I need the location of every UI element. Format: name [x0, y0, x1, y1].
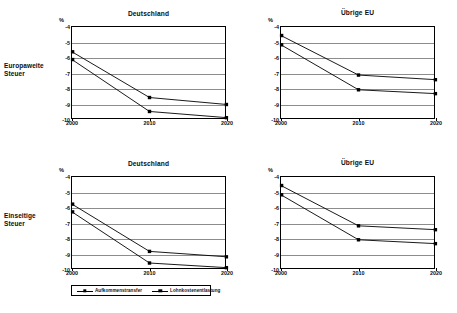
plot-area: -4-5-6-7-8-9-10200020102020	[71, 26, 226, 119]
y-axis-tick-label: -5	[65, 40, 70, 46]
y-axis-unit-label: %	[268, 17, 273, 23]
y-axis-tick-label: -4	[274, 174, 279, 180]
chart-panel-top-left: Deutschland%-4-5-6-7-8-9-10200020102020	[71, 10, 226, 133]
data-point-marker	[434, 92, 437, 95]
data-point-marker	[71, 210, 74, 213]
data-point-marker	[357, 224, 360, 227]
row-label-line2: Steuer	[4, 70, 56, 78]
data-point-marker	[357, 88, 360, 91]
legend-marker-icon	[77, 288, 93, 294]
series-layer	[281, 27, 436, 120]
y-axis-tick-label: -9	[274, 252, 279, 258]
series-layer	[281, 177, 436, 270]
y-axis-tick-label: -6	[274, 205, 279, 211]
data-point-marker	[225, 266, 228, 269]
x-axis-tick-mark	[436, 118, 437, 121]
chart-panel-bottom-right: Übrige EU%-4-5-6-7-8-9-10200020102020	[280, 159, 435, 283]
data-point-marker	[357, 238, 360, 241]
data-point-marker	[280, 184, 283, 187]
row-label-europaweite-steuer: Europaweite Steuer	[0, 62, 56, 78]
y-axis-tick-label: -7	[65, 221, 70, 227]
y-axis-tick-label: -6	[65, 55, 70, 61]
y-axis-tick-label: -9	[65, 102, 70, 108]
data-point-marker	[148, 110, 151, 113]
data-point-marker	[71, 202, 74, 205]
series-line	[281, 195, 436, 244]
chart-panel-top-right: Übrige EU%-4-5-6-7-8-9-10200020102020	[280, 9, 435, 133]
row-label-line2: Steuer	[4, 220, 56, 228]
data-point-marker	[357, 73, 360, 76]
y-axis-tick-label: -4	[274, 24, 279, 30]
y-axis-unit-label: %	[59, 17, 64, 23]
legend-marker-icon	[152, 288, 168, 294]
data-point-marker	[148, 261, 151, 264]
y-axis-unit-label: %	[268, 167, 273, 173]
data-point-marker	[434, 228, 437, 231]
data-point-marker	[71, 50, 74, 53]
data-point-marker	[225, 116, 228, 119]
y-axis-unit-label: %	[59, 167, 64, 173]
plot-area: -4-5-6-7-8-9-10200020102020	[280, 176, 435, 269]
y-axis-tick-label: -8	[274, 236, 279, 242]
data-point-marker	[280, 193, 283, 196]
plot-area: -4-5-6-7-8-9-10200020102020	[280, 26, 435, 119]
y-axis-tick-label: -8	[274, 86, 279, 92]
row-label-line1: Europaweite	[4, 62, 56, 70]
series-line	[72, 60, 227, 118]
series-line	[281, 186, 436, 230]
y-axis-tick-label: -8	[65, 236, 70, 242]
series-layer	[72, 27, 227, 120]
y-axis-tick-label: -6	[274, 55, 279, 61]
y-axis-tick-label: -7	[65, 71, 70, 77]
panel-title: Übrige EU	[280, 9, 435, 16]
figure-four-panel-line-charts: Europaweite Steuer Einseitige Steuer Deu…	[0, 0, 457, 313]
data-point-marker	[280, 43, 283, 46]
chart-legend: Aufkommenstransfer Lohnkostenentlastung	[71, 285, 211, 296]
x-axis-tick-mark	[436, 268, 437, 271]
panel-title: Deutschland	[71, 10, 226, 17]
row-label-line1: Einseitige	[4, 212, 56, 220]
y-axis-tick-label: -5	[274, 190, 279, 196]
y-axis-tick-label: -5	[65, 190, 70, 196]
panel-title: Deutschland	[71, 160, 226, 167]
legend-label: Lohnkostenentlastung	[170, 288, 220, 293]
panel-title: Übrige EU	[280, 159, 435, 166]
series-line	[72, 212, 227, 268]
series-line	[72, 204, 227, 257]
data-point-marker	[225, 103, 228, 106]
data-point-marker	[225, 255, 228, 258]
chart-panel-bottom-left: Deutschland%-4-5-6-7-8-9-10200020102020	[71, 160, 226, 283]
y-axis-tick-label: -4	[65, 174, 70, 180]
series-line	[281, 36, 436, 80]
series-layer	[72, 177, 227, 270]
legend-item-aufkommenstransfer: Aufkommenstransfer	[77, 288, 142, 294]
data-point-marker	[71, 58, 74, 61]
y-axis-tick-label: -6	[65, 205, 70, 211]
y-axis-tick-label: -9	[274, 102, 279, 108]
data-point-marker	[434, 242, 437, 245]
row-label-einseitige-steuer: Einseitige Steuer	[0, 212, 56, 228]
data-point-marker	[148, 250, 151, 253]
legend-label: Aufkommenstransfer	[95, 288, 142, 293]
y-axis-tick-label: -7	[274, 221, 279, 227]
data-point-marker	[148, 96, 151, 99]
legend-item-lohnkostenentlastung: Lohnkostenentlastung	[152, 288, 220, 294]
y-axis-tick-label: -9	[65, 252, 70, 258]
data-point-marker	[434, 78, 437, 81]
y-axis-tick-label: -4	[65, 24, 70, 30]
plot-area: -4-5-6-7-8-9-10200020102020	[71, 176, 226, 269]
series-line	[281, 45, 436, 94]
y-axis-tick-label: -5	[274, 40, 279, 46]
y-axis-tick-label: -8	[65, 86, 70, 92]
y-axis-tick-label: -7	[274, 71, 279, 77]
data-point-marker	[280, 34, 283, 37]
